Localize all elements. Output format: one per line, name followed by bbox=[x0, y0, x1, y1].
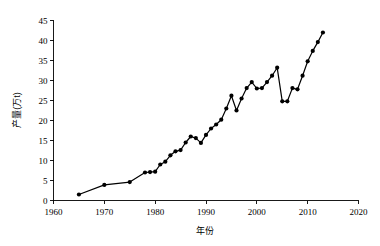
y-axis-ticks bbox=[50, 21, 54, 201]
x-tick-label: 1980 bbox=[146, 207, 165, 217]
data-point bbox=[311, 49, 315, 53]
data-point bbox=[153, 170, 157, 174]
data-point bbox=[250, 80, 254, 84]
y-tick-label: 25 bbox=[39, 96, 49, 106]
data-point bbox=[214, 122, 218, 126]
y-tick-label: 45 bbox=[39, 16, 49, 26]
data-point bbox=[295, 87, 299, 91]
data-point bbox=[148, 170, 152, 174]
x-tick-label: 1960 bbox=[45, 207, 64, 217]
data-point bbox=[77, 192, 81, 196]
data-point bbox=[102, 183, 106, 187]
chart-figure: 051015202530354045 196019701980199020002… bbox=[0, 0, 380, 246]
data-point bbox=[184, 140, 188, 144]
data-point bbox=[300, 74, 304, 78]
data-point bbox=[219, 118, 223, 122]
x-axis-tick-labels: 1960197019801990200020102020 bbox=[45, 207, 369, 217]
y-tick-label: 20 bbox=[39, 116, 49, 126]
y-tick-label: 35 bbox=[39, 56, 49, 66]
data-point bbox=[306, 59, 310, 63]
x-tick-label: 2020 bbox=[350, 207, 369, 217]
data-point bbox=[173, 149, 177, 153]
data-point bbox=[143, 170, 147, 174]
data-point bbox=[234, 108, 238, 112]
data-point bbox=[260, 86, 264, 90]
data-point bbox=[321, 30, 325, 34]
data-point bbox=[194, 136, 198, 140]
y-tick-label: 15 bbox=[39, 136, 49, 146]
line-chart: 051015202530354045 196019701980199020002… bbox=[0, 0, 380, 246]
data-point bbox=[245, 86, 249, 90]
series-markers-production bbox=[77, 30, 325, 196]
data-point bbox=[270, 74, 274, 78]
y-axis-title: 产量(万t) bbox=[11, 92, 22, 128]
y-tick-label: 0 bbox=[43, 196, 48, 206]
data-point bbox=[163, 160, 167, 164]
data-point bbox=[316, 40, 320, 44]
y-tick-label: 30 bbox=[39, 76, 49, 86]
data-point bbox=[168, 153, 172, 157]
data-point bbox=[128, 180, 132, 184]
y-tick-label: 10 bbox=[39, 156, 49, 166]
data-point bbox=[285, 99, 289, 103]
y-tick-label: 40 bbox=[39, 36, 49, 46]
series-line-production bbox=[79, 33, 323, 195]
x-tick-label: 1990 bbox=[197, 207, 216, 217]
data-point bbox=[275, 66, 279, 70]
y-axis-tick-labels: 051015202530354045 bbox=[39, 16, 49, 206]
x-tick-label: 2000 bbox=[248, 207, 267, 217]
data-point bbox=[199, 141, 203, 145]
data-point bbox=[209, 126, 213, 130]
data-point bbox=[239, 96, 243, 100]
x-axis-ticks bbox=[54, 201, 359, 205]
data-point bbox=[265, 80, 269, 84]
data-point bbox=[224, 106, 228, 110]
data-point bbox=[280, 99, 284, 103]
data-point bbox=[290, 86, 294, 90]
y-tick-label: 5 bbox=[43, 176, 48, 186]
data-point bbox=[255, 86, 259, 90]
data-point bbox=[229, 94, 233, 98]
x-tick-label: 2010 bbox=[299, 207, 318, 217]
x-tick-label: 1970 bbox=[95, 207, 114, 217]
data-point bbox=[158, 162, 162, 166]
data-point bbox=[178, 148, 182, 152]
x-axis-title: 年份 bbox=[196, 225, 214, 236]
data-point bbox=[189, 134, 193, 138]
data-point bbox=[204, 133, 208, 137]
